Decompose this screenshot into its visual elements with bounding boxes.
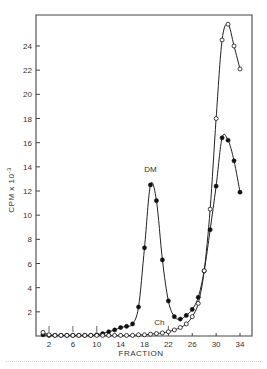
data-point-open xyxy=(59,333,63,337)
x-axis-ticks: 2610141822263034 xyxy=(47,326,245,349)
data-point-open xyxy=(214,117,218,121)
data-point-open xyxy=(190,315,194,319)
data-point-open xyxy=(166,330,170,334)
y-axis-label: CPM x 10-3 xyxy=(6,167,16,213)
data-point-open xyxy=(137,333,141,337)
series-line-dm xyxy=(43,134,240,335)
data-point-open xyxy=(154,332,158,336)
data-point-open xyxy=(71,333,75,337)
data-point-filled xyxy=(130,322,134,326)
data-point-open xyxy=(143,333,147,337)
svg-text:CPM x 10-3: CPM x 10-3 xyxy=(6,167,16,213)
data-point-filled xyxy=(196,295,200,299)
data-point-open xyxy=(119,333,123,337)
data-point-filled xyxy=(214,184,218,188)
data-point-filled xyxy=(148,183,152,187)
data-point-open xyxy=(107,333,111,337)
data-point-filled xyxy=(119,325,123,329)
data-point-open xyxy=(196,301,200,305)
data-point-open xyxy=(41,330,45,334)
data-point-filled xyxy=(160,258,164,262)
data-point-open xyxy=(53,333,57,337)
data-point-open xyxy=(101,333,105,337)
data-point-filled xyxy=(226,138,230,142)
y-tick-label: 8 xyxy=(28,235,33,244)
data-point-open xyxy=(83,333,87,337)
data-point-filled xyxy=(142,246,146,250)
data-point-filled xyxy=(178,317,182,321)
x-tick-label: 34 xyxy=(236,340,245,349)
y-tick-label: 18 xyxy=(23,115,32,124)
y-axis-label-exponent: -3 xyxy=(6,167,12,173)
data-point-open xyxy=(131,333,135,337)
y-tick-label: 14 xyxy=(23,163,32,172)
y-tick-label: 2 xyxy=(28,308,33,317)
data-point-filled xyxy=(136,305,140,309)
data-point-filled xyxy=(166,299,170,303)
series-line-ch xyxy=(43,24,240,335)
data-point-open xyxy=(125,333,129,337)
x-tick-label: 18 xyxy=(140,340,149,349)
data-point-open xyxy=(232,44,236,48)
data-point-open xyxy=(113,333,117,337)
x-tick-label: 30 xyxy=(212,340,221,349)
data-point-open xyxy=(160,331,164,335)
data-point-filled xyxy=(184,313,188,317)
x-tick-label: 6 xyxy=(71,340,76,349)
fraction-cpm-chart: 24681012141618202224 2610141822263034 DM… xyxy=(0,0,267,369)
data-point-filled xyxy=(113,328,117,332)
data-point-filled xyxy=(124,324,128,328)
x-tick-label: 22 xyxy=(164,340,173,349)
y-tick-label: 24 xyxy=(23,42,32,51)
x-tick-label: 2 xyxy=(47,340,52,349)
data-point-filled xyxy=(172,315,176,319)
data-point-open xyxy=(184,322,188,326)
annotation-ch: Ch xyxy=(154,318,164,327)
data-point-open xyxy=(208,207,212,211)
y-tick-label: 22 xyxy=(23,66,32,75)
x-tick-label: 10 xyxy=(92,340,101,349)
x-tick-label: 14 xyxy=(116,340,125,349)
data-point-filled xyxy=(232,159,236,163)
data-point-filled xyxy=(154,199,158,203)
data-point-open xyxy=(77,333,81,337)
x-axis-label: FRACTION xyxy=(119,349,164,358)
y-tick-label: 10 xyxy=(23,211,32,220)
data-point-filled xyxy=(208,228,212,232)
x-tick-label: 26 xyxy=(188,340,197,349)
caption-remnant xyxy=(6,361,261,365)
data-point-open xyxy=(95,333,99,337)
data-point-open xyxy=(226,22,230,26)
y-tick-label: 20 xyxy=(23,90,32,99)
annotation-dm: DM xyxy=(144,165,157,174)
data-point-open xyxy=(89,333,93,337)
data-point-open xyxy=(238,67,242,71)
data-point-filled xyxy=(238,190,242,194)
series-lines xyxy=(43,24,240,335)
y-tick-label: 16 xyxy=(23,139,32,148)
data-point-open xyxy=(178,326,182,330)
data-point-open xyxy=(65,333,69,337)
data-point-open xyxy=(172,328,176,332)
y-tick-label: 12 xyxy=(23,187,32,196)
data-point-filled xyxy=(220,136,224,140)
data-point-open xyxy=(148,332,152,336)
y-tick-label: 6 xyxy=(28,260,33,269)
y-axis-label-text: CPM x 10 xyxy=(7,174,16,213)
data-point-open xyxy=(220,38,224,42)
data-point-filled xyxy=(190,307,194,311)
data-point-open xyxy=(47,333,51,337)
y-tick-label: 4 xyxy=(28,284,33,293)
data-point-open xyxy=(202,269,206,273)
y-axis-ticks: 24681012141618202224 xyxy=(23,42,40,317)
